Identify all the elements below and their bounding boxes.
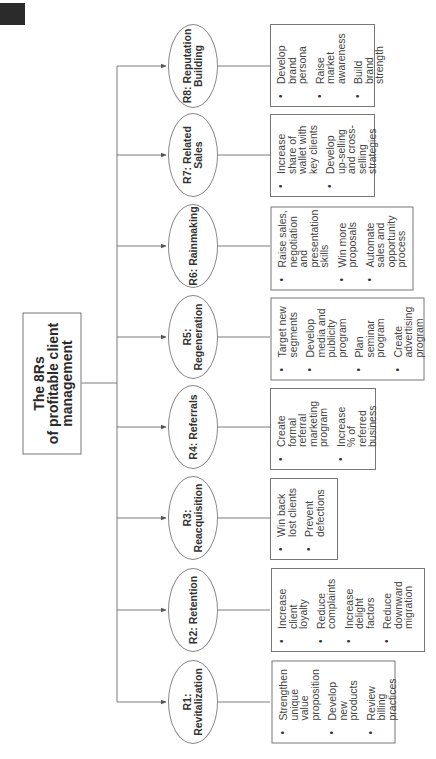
- branch-node-r3: R3: Reacquisition: [168, 476, 218, 560]
- branch-node-r4: R4: Referrals: [168, 385, 218, 469]
- action-item: Create formal referral marketing program: [276, 395, 329, 463]
- action-item: Reduce complaints: [316, 575, 337, 645]
- action-box-r1: Strengthen unique value proposition Deve…: [271, 660, 395, 743]
- action-item: Win back lost clients: [276, 485, 297, 553]
- branch-label-r4: R4: Referrals: [188, 394, 199, 459]
- action-box-r6: Raise sales, negotiation and presentatio…: [270, 206, 413, 290]
- action-item: Build brand strength: [353, 31, 385, 100]
- action-item: Develop media and publicity program: [304, 304, 346, 373]
- action-item: Increase share of wallet with key client…: [276, 121, 318, 190]
- action-box-r2: Increase client loyalty Reduce complaint…: [271, 568, 425, 652]
- branch-node-r5: R5: Regeneration: [168, 295, 218, 379]
- action-box-r4: Create formal referral marketing program…: [270, 388, 376, 470]
- branch-node-r2: R2: Retention: [168, 568, 218, 652]
- branch-label-r8-line2: Building: [193, 29, 204, 104]
- action-item: Develop brand persona: [276, 31, 308, 100]
- action-item: Strengthen unique value proposition: [277, 667, 319, 736]
- action-item: Increase % of referred business: [336, 395, 378, 463]
- branch-label-r7: R7: Related Sales: [182, 114, 204, 196]
- branch-label-r2: R2: Retention: [188, 576, 199, 644]
- action-item: Raise market awareness: [315, 31, 347, 100]
- branch-node-r1: R1: Revitalization: [168, 660, 218, 744]
- action-box-r3: Win back lost clients Prevent defections: [270, 478, 338, 560]
- branch-node-r6: R6: Rainmaking: [168, 204, 218, 288]
- title-box: The 8Rs of profitable client management: [22, 312, 81, 454]
- action-item: Create advertising program: [392, 304, 424, 373]
- branch-label-r1: R1: Revitalization: [182, 661, 204, 743]
- title-line-3: management: [59, 322, 73, 443]
- action-item: Reduce downward migration: [382, 575, 414, 645]
- action-item: Develop up-selling and cross-selling str…: [325, 121, 378, 190]
- action-item: Automate sales and opportunity process: [364, 209, 406, 283]
- action-item: Increase delight factors: [344, 575, 376, 645]
- action-item: Develop new products: [326, 667, 358, 736]
- action-item: Review billing practices: [365, 667, 397, 736]
- diagram-title: The 8Rs of profitable client management: [31, 322, 73, 443]
- action-box-r5: Target new segments Develop media and pu…: [270, 297, 424, 380]
- action-box-r7: Increase share of wallet with key client…: [270, 114, 375, 197]
- title-line-2: of profitable client: [45, 322, 59, 443]
- action-item: Win more proposals: [336, 209, 357, 283]
- branch-label-r6: R6: Rainmaking: [188, 206, 199, 285]
- branch-label-r3: R3: Reacquisition: [182, 477, 204, 559]
- branch-node-r8: R8: Reputation Building: [168, 24, 218, 108]
- branch-label-r5: R5: Regeneration: [182, 296, 204, 378]
- action-item: Plan seminar program: [353, 304, 385, 373]
- action-item: Increase client loyalty: [277, 575, 309, 645]
- title-line-1: The 8Rs: [31, 322, 45, 443]
- action-item: Prevent defections: [304, 485, 325, 553]
- branch-node-r7: R7: Related Sales: [168, 113, 218, 197]
- action-item: Target new segments: [276, 304, 297, 373]
- action-item: Raise sales, negotiation and presentatio…: [276, 209, 329, 283]
- action-box-r8: Develop brand persona Raise market aware…: [270, 24, 375, 107]
